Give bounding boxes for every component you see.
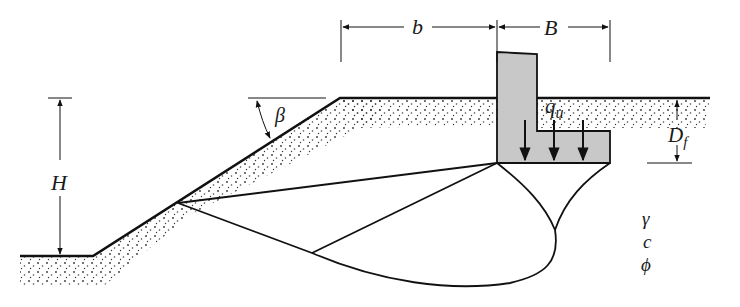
soil-stipple [20, 98, 710, 285]
label-gamma: γ [642, 208, 650, 229]
label-H: H [50, 170, 68, 195]
label-beta: β [274, 104, 285, 127]
slope-footing-diagram: H β b B qu Df γ c ϕ [0, 0, 740, 307]
label-phi: ϕ [641, 254, 651, 275]
label-B: B [544, 15, 557, 40]
label-c: c [643, 231, 652, 252]
label-b: b [412, 14, 423, 39]
soil-properties: γ c ϕ [641, 208, 652, 275]
